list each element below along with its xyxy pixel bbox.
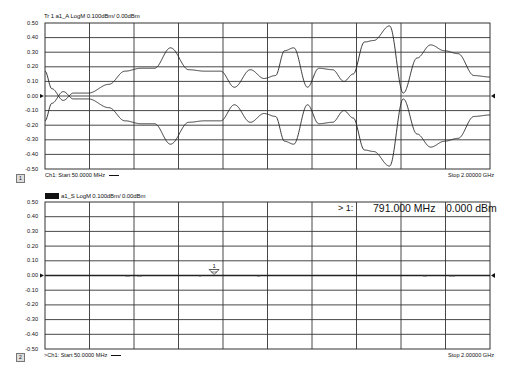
y-tick-label: 0.10 [0, 257, 38, 263]
y-tick-label: 0.00 [0, 272, 38, 278]
start-line-2 [111, 355, 121, 356]
trace-title-2: a1_S LogM 0.100dBm/ 0.00dBm [61, 193, 145, 199]
channel-indicator-2[interactable]: 2 [16, 353, 25, 362]
y-tick-label: -0.50 [0, 346, 38, 352]
trace-plot-2[interactable]: 1 [0, 0, 508, 374]
trace-window-2: 1 a1_S LogM 0.100dBm/ 0.00dBm 0.500.400.… [0, 0, 508, 374]
reference-left-arrow-icon [40, 274, 44, 278]
marker-value: 0.000 dBm [446, 202, 497, 214]
marker-label: > 1: [338, 203, 353, 213]
y-tick-label: 0.50 [0, 199, 38, 205]
stop-frequency-2: Stop 2.00000 GHz [448, 352, 494, 358]
y-tick-label: -0.10 [0, 287, 38, 293]
y-tick-label: 0.20 [0, 243, 38, 249]
trace-color-swatch-2 [45, 193, 59, 199]
marker-frequency: 791.000 MHz [373, 202, 435, 214]
y-tick-label: 0.30 [0, 228, 38, 234]
y-tick-label: -0.40 [0, 331, 38, 337]
marker-1-icon[interactable]: 1 [209, 263, 219, 275]
y-tick-label: -0.30 [0, 316, 38, 322]
y-tick-label: -0.20 [0, 301, 38, 307]
svg-text:1: 1 [213, 263, 217, 269]
start-frequency-2: >Ch1: Start 50.0000 MHz [44, 352, 107, 358]
reference-right-arrow-icon [491, 273, 495, 278]
y-tick-label: 0.40 [0, 213, 38, 219]
